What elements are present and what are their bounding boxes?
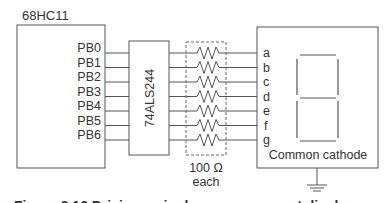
- resistor-icon: [197, 105, 219, 117]
- resistor-array: [197, 47, 219, 146]
- resistor-icon: [197, 76, 219, 88]
- buffer-label: 74ALS244: [143, 69, 157, 127]
- segment-label: b: [263, 61, 270, 75]
- segment-label: f: [264, 119, 268, 133]
- resistor-icon: [197, 47, 219, 59]
- port-label: PB3: [77, 85, 101, 99]
- segment-label: g: [263, 133, 270, 147]
- segment-label: d: [263, 90, 270, 104]
- buffer-to-resistor-wires: [169, 53, 197, 140]
- port-label: PB6: [77, 128, 101, 142]
- resistor-each-label: each: [192, 175, 219, 189]
- port-label: PB1: [77, 56, 101, 70]
- mcu-port-labels: PB0 PB1 PB2 PB3 PB4 PB5 PB6: [77, 41, 101, 142]
- resistor-pack-outline: [186, 42, 226, 155]
- port-label: PB4: [77, 99, 101, 113]
- display-type-label: Common cathode: [269, 148, 368, 162]
- resistor-icon: [197, 120, 219, 132]
- segment-label: c: [263, 75, 269, 89]
- resistor-icon: [197, 134, 219, 146]
- port-label: PB2: [77, 70, 101, 84]
- mcu-label: 68HC11: [22, 8, 69, 23]
- resistor-icon: [197, 62, 219, 74]
- seven-segment-digit-icon: [297, 55, 338, 141]
- figure-caption: Figure 8.16 Driving a single seven-segme…: [14, 198, 354, 203]
- ground-icon: [307, 168, 327, 191]
- resistor-value-label: 100 Ω: [189, 161, 223, 175]
- port-label: PB5: [77, 114, 101, 128]
- circuit-diagram: 68HC11 PB0 PB1 PB2 PB3 PB4 PB5 PB6 74ALS…: [0, 0, 385, 203]
- segment-label: a: [263, 46, 270, 60]
- resistor-to-display-wires: [219, 53, 257, 140]
- resistor-icon: [197, 91, 219, 103]
- segment-labels: a b c d e f g: [263, 46, 270, 147]
- segment-label: e: [263, 104, 270, 118]
- port-label: PB0: [77, 41, 101, 55]
- mcu-to-buffer-wires: [105, 53, 129, 140]
